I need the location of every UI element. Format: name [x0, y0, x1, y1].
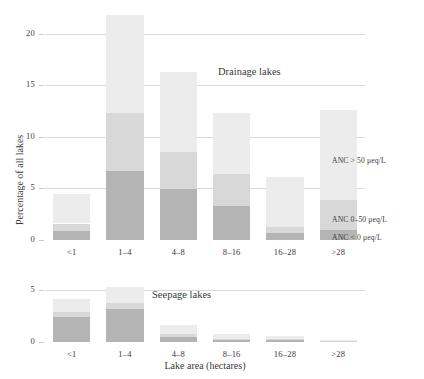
y-axis-tick-mark	[39, 342, 44, 343]
bar-segment	[213, 206, 250, 240]
y-axis-tick-mark	[39, 188, 44, 189]
x-axis-tick-label: 8–16	[205, 349, 258, 359]
x-axis-tick-label: 8–16	[205, 247, 258, 257]
bar-segment	[53, 312, 90, 317]
bar-segment	[213, 174, 250, 206]
x-axis-tick-label: <1	[45, 349, 98, 359]
x-axis-tick-label: <1	[45, 247, 98, 257]
bar-segment	[106, 15, 143, 113]
x-axis-tick-label: 4–8	[152, 247, 205, 257]
gridline	[45, 137, 365, 138]
bar-segment	[213, 340, 250, 342]
bar-segment	[160, 334, 197, 337]
bar-segment	[213, 113, 250, 174]
x-axis-tick-label: 16–28	[258, 349, 311, 359]
legend-item-anc-high: ANC > 50 μeq/L	[332, 156, 386, 165]
bar-segment	[106, 287, 143, 303]
gridline	[45, 188, 365, 189]
panel-seepage-lakes: 05<11–44–88–1616–28>28 Seepage lakes Lak…	[0, 262, 424, 379]
y-axis-tick-mark	[39, 85, 44, 86]
bar-segment	[106, 171, 143, 240]
bar-segment	[213, 334, 250, 339]
bar-segment	[53, 231, 90, 240]
x-axis-title: Lake area (hectares)	[45, 360, 365, 371]
bar-stack[interactable]	[160, 8, 197, 240]
y-axis-tick-label: 10	[11, 131, 35, 141]
bar-segment	[106, 113, 143, 171]
y-axis-tick-label: 5	[11, 284, 35, 294]
y-axis-tick-label: 15	[11, 79, 35, 89]
panel-title-seepage: Seepage lakes	[152, 289, 211, 300]
bar-segment	[53, 299, 90, 312]
y-axis-tick-label: 5	[11, 182, 35, 192]
bar-segment	[106, 303, 143, 309]
y-axis-tick-label: 20	[11, 28, 35, 38]
bar-stack[interactable]	[53, 280, 90, 342]
bar-segment	[266, 233, 303, 240]
bar-stack[interactable]	[266, 280, 303, 342]
legend-item-anc-low: ANC < 0 μeq/L	[332, 233, 382, 242]
x-axis-tick-label: >28	[312, 247, 365, 257]
bar-segment	[266, 340, 303, 342]
figure-stacked-bar-charts: Percentage of all lakes 05101520<11–44–8…	[0, 0, 424, 379]
bar-segment	[53, 194, 90, 224]
bar-segment	[53, 317, 90, 342]
y-axis-tick-label: 0	[11, 336, 35, 346]
gridline	[45, 34, 365, 35]
y-axis-tick-mark	[39, 34, 44, 35]
bar-stack[interactable]	[320, 8, 357, 240]
panel-title-drainage: Drainage lakes	[218, 66, 281, 77]
bar-stack[interactable]	[53, 8, 90, 240]
bar-stack[interactable]	[320, 280, 357, 342]
bar-segment	[213, 339, 250, 341]
x-axis-tick-label: 1–4	[98, 349, 151, 359]
bar-segment	[160, 152, 197, 189]
y-axis-title: Percentage of all lakes	[14, 135, 25, 225]
y-axis-tick-mark	[39, 290, 44, 291]
bar-stack[interactable]	[213, 8, 250, 240]
bar-segment	[320, 341, 357, 342]
bar-segment	[160, 72, 197, 152]
x-axis-tick-label: 16–28	[258, 247, 311, 257]
bar-segment	[53, 224, 90, 231]
gridline	[45, 85, 365, 86]
bar-segment	[266, 227, 303, 233]
bar-segment	[160, 337, 197, 342]
bar-stack[interactable]	[106, 280, 143, 342]
bar-segment	[266, 336, 303, 339]
x-axis-tick-label: 1–4	[98, 247, 151, 257]
y-axis-tick-mark	[39, 240, 44, 241]
y-axis-tick-mark	[39, 137, 44, 138]
bar-segment	[266, 177, 303, 226]
bar-segment	[160, 325, 197, 333]
bar-segment	[160, 189, 197, 240]
plot-area-drainage: 05101520<11–44–88–1616–28>28	[45, 8, 365, 240]
x-axis-tick-label: 4–8	[152, 349, 205, 359]
x-axis-tick-label: >28	[312, 349, 365, 359]
bar-segment	[320, 110, 357, 200]
bar-stack[interactable]	[266, 8, 303, 240]
bar-segment	[266, 339, 303, 340]
bar-segment	[320, 341, 357, 342]
y-axis-tick-label: 0	[11, 234, 35, 244]
legend-item-anc-mid: ANC 0–50 μeq/L	[332, 215, 387, 224]
bar-stack[interactable]	[213, 280, 250, 342]
bar-stack[interactable]	[106, 8, 143, 240]
bar-segment	[106, 309, 143, 342]
bar-segment	[320, 340, 357, 341]
